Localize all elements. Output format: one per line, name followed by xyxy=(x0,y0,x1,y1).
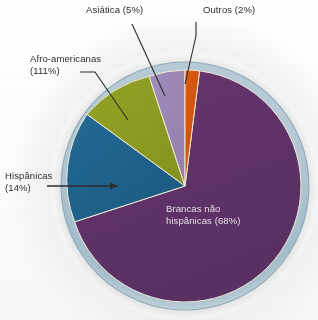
pie-label-outros: Outros (2%) xyxy=(203,4,255,16)
pie-chart-graphic xyxy=(0,0,318,320)
pie-label-hispanicas: Hispânicas (14%) xyxy=(5,170,52,193)
pie-label-brancas-nao-hispanicas: Brancas não hispânicas (68%) xyxy=(166,203,240,227)
pie-label-afro-americanas: Afro-americanas (111%) xyxy=(30,53,101,76)
pie-chart-figure: Asiática (5%) Outros (2%) Afro-americana… xyxy=(0,0,318,320)
pie-label-asiatica: Asiática (5%) xyxy=(86,4,143,16)
